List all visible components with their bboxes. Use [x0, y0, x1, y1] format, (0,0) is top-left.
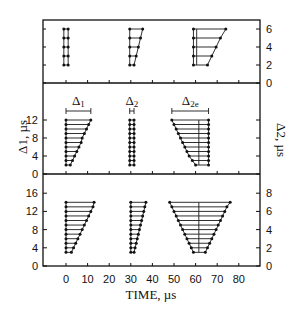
y-tick-label: 16 — [26, 187, 38, 199]
y-tick-label: 8 — [266, 187, 272, 199]
annotation-Δ2: Δ2 — [125, 93, 138, 114]
y-tick-label: 6 — [266, 205, 272, 217]
annotations: Δ1Δ2Δ2e — [66, 93, 209, 114]
axis-ticks — [43, 29, 260, 266]
svg-text:Δ2e: Δ2e — [182, 93, 199, 109]
series-bottom-group-2 — [129, 201, 147, 254]
y-tick-label: 6 — [266, 23, 272, 35]
y-tick-label: 4 — [32, 242, 38, 254]
series-top-group-2 — [128, 28, 144, 67]
y-tick-label: 8 — [32, 224, 38, 236]
x-tick-label: 0 — [63, 273, 69, 285]
svg-text:Δ1: Δ1 — [72, 93, 85, 109]
x-tick-label: 60 — [189, 273, 201, 285]
y-tick-label: 0 — [32, 260, 38, 272]
series-top-group-3 — [192, 28, 227, 67]
chart: 01020304050607080024604812048121602468 Δ… — [0, 0, 300, 316]
x-tick-label: 80 — [233, 273, 245, 285]
series-bottom-group-1 — [65, 201, 96, 254]
series-top-group-1 — [62, 28, 69, 67]
y-tick-label: 0 — [266, 77, 272, 89]
x-tick-label: 70 — [211, 273, 223, 285]
middle-left-axis-label: Δ1, µs — [15, 120, 30, 154]
y-tick-label: 4 — [266, 224, 272, 236]
y-tick-label: 8 — [32, 132, 38, 144]
data-series — [62, 28, 231, 254]
y-tick-label: 0 — [266, 260, 272, 272]
series-middle-delta-2 — [128, 119, 135, 167]
annotation-Δ1: Δ1 — [66, 93, 91, 114]
y-tick-label: 12 — [26, 205, 38, 217]
series-middle-delta-1 — [65, 119, 93, 167]
y-tick-label: 4 — [32, 150, 38, 162]
annotation-Δ2e: Δ2e — [172, 93, 209, 114]
y-tick-label: 2 — [266, 59, 272, 71]
tick-labels: 01020304050607080024604812048121602468 — [26, 23, 272, 285]
x-axis-label: TIME, µs — [126, 287, 177, 302]
svg-text:Δ2: Δ2 — [125, 93, 138, 109]
y-tick-label: 4 — [266, 41, 272, 53]
x-tick-label: 20 — [103, 273, 115, 285]
plot-frame — [43, 20, 260, 266]
x-tick-label: 10 — [81, 273, 93, 285]
series-bottom-group-3 — [168, 201, 231, 254]
y-tick-label: 0 — [32, 168, 38, 180]
y-tick-label: 2 — [266, 242, 272, 254]
x-tick-label: 40 — [146, 273, 158, 285]
x-tick-label: 30 — [125, 273, 137, 285]
series-middle-delta-2e — [170, 119, 210, 167]
middle-right-axis-label: Δ2, µs — [274, 123, 289, 157]
x-tick-label: 50 — [168, 273, 180, 285]
